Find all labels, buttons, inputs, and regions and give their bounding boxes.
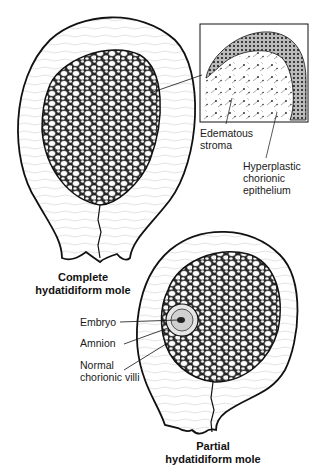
title-complete-mole: Complete hydatidiform mole: [20, 271, 146, 297]
label-embryo: Embryo: [80, 316, 116, 328]
embryo-shape: [177, 317, 185, 323]
label-line: epithelium: [243, 184, 301, 196]
histology-inset: [200, 24, 308, 122]
partial-mole-drawing: [137, 232, 297, 434]
illustration-canvas: [0, 0, 314, 468]
label-edematous-stroma: Edematous stroma: [200, 127, 253, 151]
label-line: chorionic villi: [80, 371, 140, 383]
label-line: stroma: [200, 139, 253, 151]
title-line: Complete: [20, 271, 146, 284]
title-line: hydatidiform mole: [20, 284, 146, 297]
label-hyperplastic-epithelium: Hyperplastic chorionic epithelium: [243, 160, 301, 196]
label-line: Normal: [80, 359, 140, 371]
title-partial-mole: Partial hydatidiform mole: [148, 440, 278, 466]
title-line: Partial: [148, 440, 278, 453]
label-normal-villi: Normal chorionic villi: [80, 359, 140, 383]
label-amnion: Amnion: [80, 337, 116, 349]
label-line: Hyperplastic: [243, 160, 301, 172]
title-line: hydatidiform mole: [148, 453, 278, 466]
label-line: chorionic: [243, 172, 301, 184]
complete-mole-drawing: [18, 17, 195, 262]
label-line: Edematous: [200, 127, 253, 139]
